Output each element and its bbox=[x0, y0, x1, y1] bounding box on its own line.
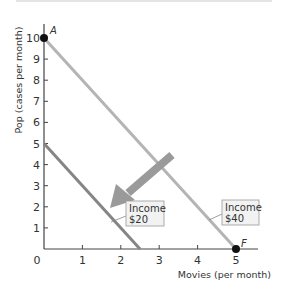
svg-text:Income: Income bbox=[129, 203, 166, 214]
svg-text:0: 0 bbox=[34, 254, 41, 267]
x-axis-title: Movies (per month) bbox=[178, 269, 271, 280]
svg-text:1: 1 bbox=[33, 222, 40, 235]
svg-text:3: 3 bbox=[33, 180, 40, 193]
y-tick-labels: 1 2 3 4 5 6 7 8 9 10 bbox=[26, 32, 40, 235]
svg-text:8: 8 bbox=[33, 74, 40, 87]
svg-text:2: 2 bbox=[117, 254, 124, 267]
svg-text:4: 4 bbox=[194, 254, 201, 267]
svg-text:4: 4 bbox=[33, 159, 40, 172]
svg-text:5: 5 bbox=[33, 138, 40, 151]
svg-text:$20: $20 bbox=[129, 214, 148, 225]
svg-text:2: 2 bbox=[33, 201, 40, 214]
svg-text:1: 1 bbox=[79, 254, 86, 267]
shift-arrow-icon bbox=[110, 155, 172, 208]
point-f-marker bbox=[232, 245, 240, 253]
income-40-label: Income $40 bbox=[209, 200, 262, 225]
svg-text:9: 9 bbox=[33, 53, 40, 66]
svg-text:Income: Income bbox=[225, 202, 262, 213]
svg-text:7: 7 bbox=[33, 95, 40, 108]
svg-text:3: 3 bbox=[156, 254, 163, 267]
svg-text:6: 6 bbox=[33, 116, 40, 129]
point-a-marker bbox=[40, 34, 48, 42]
point-a-label: A bbox=[49, 25, 57, 36]
svg-text:5: 5 bbox=[233, 254, 240, 267]
point-f-label: F bbox=[241, 238, 247, 249]
svg-text:10: 10 bbox=[26, 32, 40, 45]
svg-text:$40: $40 bbox=[225, 213, 244, 224]
budget-line-chart: 1 2 3 4 5 6 7 8 9 10 0 1 2 3 4 5 Movies … bbox=[0, 0, 286, 288]
y-axis-title: Pop (cases per month) bbox=[13, 26, 24, 133]
x-tick-labels: 0 1 2 3 4 5 bbox=[34, 254, 240, 267]
